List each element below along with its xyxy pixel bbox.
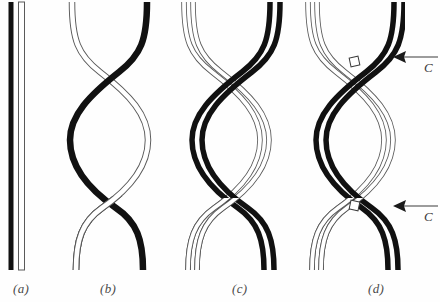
cut-arrow-upper-label: C bbox=[424, 60, 433, 76]
panel-label-d: (d) bbox=[368, 281, 384, 297]
panel-label-b: (b) bbox=[100, 281, 116, 297]
panel-d-strands bbox=[308, 2, 404, 270]
panel-label-c: (c) bbox=[232, 281, 247, 297]
panel-a-strands bbox=[9, 2, 25, 270]
figure-canvas bbox=[0, 0, 440, 302]
panel-c-strands bbox=[184, 2, 280, 270]
panel-d-cut-site-lower bbox=[349, 200, 360, 211]
panel-d-cut-site-upper bbox=[349, 56, 360, 67]
panel-a-light-strand bbox=[19, 2, 25, 270]
panel-a-dark-strand bbox=[9, 2, 14, 270]
panel-b-strands bbox=[70, 2, 148, 270]
dna-strand-recombination-figure: (a) (b) (c) (d) C C bbox=[0, 0, 440, 302]
cut-arrow-lower-label: C bbox=[424, 209, 433, 225]
panel-label-a: (a) bbox=[13, 281, 29, 297]
